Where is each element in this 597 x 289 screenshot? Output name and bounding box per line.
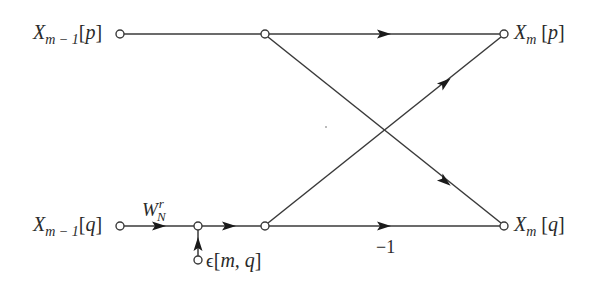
label-twiddle-factor: WrN [142,200,172,219]
noise-args: m, q [220,249,254,271]
label-subscript: m − 1 [45,32,79,47]
label-symbol: X [33,21,45,43]
label-symbol: X [514,213,526,235]
node-bottom-mid [261,222,269,230]
label-bracket: [ [541,21,548,43]
arrow-diag-down-icon [437,173,454,189]
node-input-p [116,30,124,38]
label-symbol: X [33,213,45,235]
label-subscript: m − 1 [45,224,79,239]
scan-artifact-dot [325,126,327,128]
label-subscript: m [526,224,536,239]
label-bracket: ] [558,213,565,235]
label-bracket: ] [95,213,102,235]
twiddle-symbol: W [142,199,158,220]
label-bracket: ] [255,249,262,271]
label-input-q: Xm − 1[q] [33,214,102,234]
node-noise-source [194,256,202,264]
butterfly-flow-graph [0,0,597,289]
label-output-q: Xm[q] [514,214,565,234]
label-gain-minus-one: −1 [376,238,395,256]
twiddle-subscript: N [157,209,166,224]
node-output-q [500,222,508,230]
label-noise-source: ϵ[m, q] [206,250,262,270]
node-output-p [500,30,508,38]
label-index: q [85,213,95,235]
label-input-p: Xm − 1[p] [33,22,102,42]
label-index: p [548,21,558,43]
epsilon-symbol: ϵ [206,250,214,271]
label-output-p: Xm[p] [514,22,565,42]
label-bracket: ] [558,21,565,43]
label-bracket: [ [541,213,548,235]
node-top-mid [261,30,269,38]
label-subscript: m [526,32,536,47]
label-bracket: ] [95,21,102,43]
node-adder [194,222,202,230]
label-symbol: X [514,21,526,43]
node-input-q [116,222,124,230]
label-index: p [85,21,95,43]
label-index: q [548,213,558,235]
